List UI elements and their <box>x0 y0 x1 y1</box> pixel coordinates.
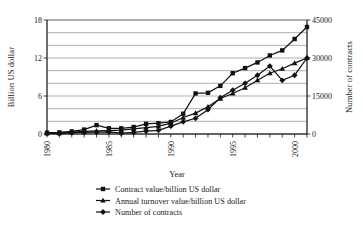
x-axis-title: Year <box>169 169 185 179</box>
data-series-group <box>44 25 310 137</box>
y2-axis-title: Number of contracts <box>344 41 354 113</box>
x-axis-ticks <box>47 134 307 138</box>
y2-tick-label: 15000 <box>312 92 332 101</box>
data-point-marker <box>268 53 272 57</box>
y-axis-ticks <box>44 20 48 134</box>
series-1 <box>45 25 309 135</box>
data-point-marker <box>206 91 210 95</box>
y-tick-label: 12 <box>34 54 42 63</box>
data-point-marker <box>255 60 259 64</box>
x-tick-label: 1985 <box>105 141 114 157</box>
y-axis-title: Billion US dollar <box>6 47 16 107</box>
chart-canvas: 19801985199019952000 061218 015000300004… <box>0 0 363 225</box>
plot-border <box>47 20 307 134</box>
y-tick-label: 6 <box>38 92 42 101</box>
legend-marker-square <box>101 187 105 191</box>
data-point-marker <box>231 71 235 75</box>
legend-item[interactable]: Contract value/billion US dollar <box>96 185 221 194</box>
y-tick-label: 0 <box>38 130 42 139</box>
data-point-marker <box>292 37 296 41</box>
data-point-marker <box>218 84 222 88</box>
y2-tick-label: 45000 <box>312 16 332 25</box>
series-line <box>47 27 307 133</box>
data-point-marker <box>193 91 197 95</box>
y2-axis-ticks <box>307 20 311 134</box>
legend-item[interactable]: Annual turnover value/billion US dollar <box>96 197 246 206</box>
y2-axis-tick-labels: 0150003000045000 <box>312 16 332 139</box>
x-tick-label: 1980 <box>43 141 52 157</box>
data-point-marker <box>280 48 284 52</box>
data-point-marker <box>94 123 98 127</box>
legend-label: Number of contracts <box>115 208 182 217</box>
y2-tick-label: 0 <box>312 130 316 139</box>
data-point-marker <box>305 25 309 29</box>
legend-label: Contract value/billion US dollar <box>115 185 221 194</box>
plot-frame <box>47 20 307 134</box>
x-tick-label: 1995 <box>229 141 238 157</box>
data-point-marker <box>180 119 186 125</box>
legend-item[interactable]: Number of contracts <box>96 208 182 217</box>
y-tick-label: 18 <box>34 16 42 25</box>
chart-legend: Contract value/billion US dollarAnnual t… <box>96 185 246 217</box>
y-axis-tick-labels: 061218 <box>34 16 42 139</box>
y2-tick-label: 30000 <box>312 54 332 63</box>
x-tick-label: 2000 <box>291 141 300 157</box>
gridlines-group <box>47 20 307 134</box>
data-point-marker <box>243 66 247 70</box>
legend-marker-diamond <box>100 209 106 215</box>
x-tick-label: 1990 <box>167 141 176 157</box>
legend-label: Annual turnover value/billion US dollar <box>115 197 246 206</box>
chart-figure: 19801985199019952000 061218 015000300004… <box>0 0 363 225</box>
x-axis-tick-labels: 19801985199019952000 <box>43 141 300 157</box>
